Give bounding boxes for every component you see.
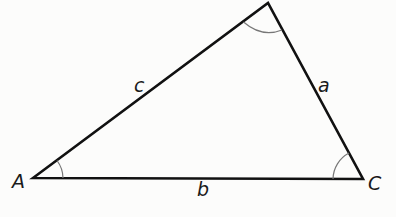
triangle-diagram: A C a b c (0, 0, 396, 217)
vertex-label-a: A (10, 170, 25, 192)
triangle (33, 3, 363, 179)
angle-arc-c (333, 153, 349, 179)
side-label-c: c (134, 74, 145, 96)
angle-arc-a (57, 161, 63, 179)
side-label-b: b (197, 178, 209, 200)
side-label-a: a (318, 74, 330, 96)
angle-arc-b (244, 22, 283, 33)
vertex-label-c: C (368, 172, 382, 194)
